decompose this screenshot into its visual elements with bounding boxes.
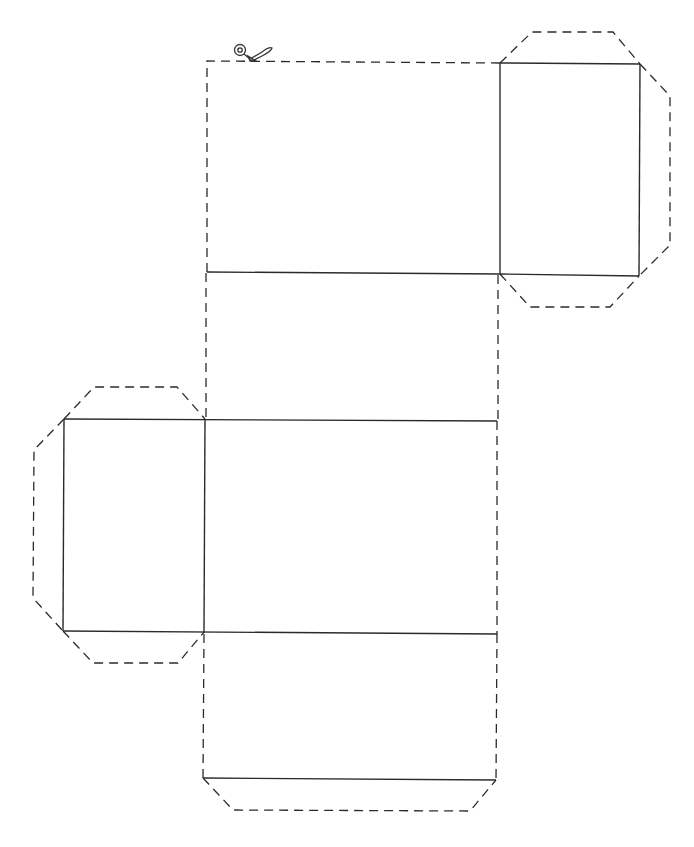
lower-fold-line bbox=[63, 631, 497, 634]
bottom-fold-line bbox=[203, 778, 496, 780]
right-square-bottom-flap bbox=[500, 274, 639, 307]
right-square-bottom-fold bbox=[500, 274, 639, 276]
top-panel-fold-line bbox=[207, 272, 500, 274]
right-square-right-fold bbox=[639, 64, 640, 276]
box-net-diagram bbox=[0, 0, 694, 847]
bottom-panel-left-cut bbox=[203, 634, 204, 778]
right-square-top-fold bbox=[500, 63, 640, 64]
left-square-top-flap bbox=[64, 387, 205, 419]
right-square-right-flap bbox=[639, 64, 670, 276]
middle-fold-line bbox=[64, 419, 497, 421]
upper-middle-panel bbox=[64, 273, 498, 421]
top-panel bbox=[207, 61, 500, 274]
bottom-panel-right-cut bbox=[496, 634, 497, 780]
left-end-square bbox=[33, 387, 205, 663]
top-panel-cut-edge bbox=[207, 61, 500, 272]
left-square-left-fold bbox=[63, 419, 64, 631]
lower-middle-panel bbox=[63, 421, 497, 634]
bottom-flap bbox=[203, 778, 496, 811]
left-square-bottom-flap bbox=[63, 631, 204, 663]
bottom-panel bbox=[203, 634, 497, 811]
scissors-icon bbox=[235, 45, 273, 62]
right-end-square bbox=[500, 32, 670, 307]
left-square-right-fold bbox=[204, 419, 205, 633]
left-square-left-flap bbox=[33, 419, 64, 631]
right-square-top-flap bbox=[500, 32, 640, 64]
